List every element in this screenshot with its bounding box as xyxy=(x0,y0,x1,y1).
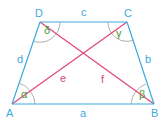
diagonal-label-e: e xyxy=(60,72,66,84)
side-label-b: b xyxy=(145,53,151,65)
diagonal-label-f: f xyxy=(101,73,105,85)
vertex-label-b: B xyxy=(151,107,158,119)
vertex-label-a: A xyxy=(6,107,14,119)
side-label-d: d xyxy=(17,53,23,65)
side-label-a: a xyxy=(80,107,87,119)
diagonal-f xyxy=(40,22,154,104)
trapezoid-diagram: A B C D a b c d e f α β γ δ xyxy=(0,0,168,129)
angle-label-gamma: γ xyxy=(116,27,122,39)
angle-label-delta: δ xyxy=(44,24,50,36)
angle-label-beta: β xyxy=(139,88,145,100)
diagonal-e xyxy=(12,22,127,104)
angle-label-alpha: α xyxy=(21,88,28,100)
side-label-c: c xyxy=(81,6,87,18)
vertex-label-d: D xyxy=(35,7,43,19)
vertex-label-c: C xyxy=(124,7,132,19)
